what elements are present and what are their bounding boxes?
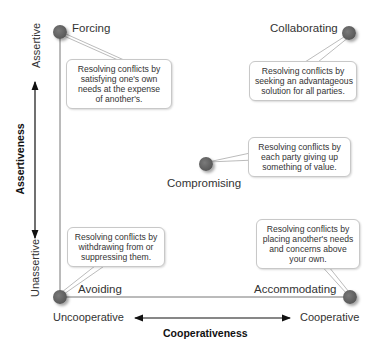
avoiding-desc-line: suppressing them. bbox=[73, 252, 159, 262]
avoiding-desc-line: Resolving conflicts by bbox=[73, 232, 159, 242]
accommodating-desc-line: Resolving conflicts by bbox=[262, 224, 354, 234]
collaborating-desc-line: seeking an advantageous bbox=[255, 76, 351, 86]
avoiding-node bbox=[53, 290, 67, 304]
accommodating-desc-line: your own. bbox=[262, 254, 354, 264]
uncooperative-label: Uncooperative bbox=[53, 311, 124, 323]
avoiding-description: Resolving conflicts by withdrawing from … bbox=[67, 227, 165, 267]
accommodating-node bbox=[343, 290, 357, 304]
compromising-label: Compromising bbox=[167, 177, 241, 189]
cooperative-label: Cooperative bbox=[300, 311, 359, 323]
assertiveness-title: Assertiveness bbox=[14, 123, 26, 195]
collaborating-description: Resolving conflicts by seeking an advant… bbox=[249, 61, 357, 101]
accommodating-label: Accommodating bbox=[254, 283, 336, 295]
forcing-node bbox=[53, 25, 67, 39]
compromising-node bbox=[199, 157, 213, 171]
accommodating-description: Resolving conflicts by placing another's… bbox=[256, 219, 360, 269]
forcing-description: Resolving conflicts by satisfying one's … bbox=[66, 59, 172, 109]
assertive-label: Assertive bbox=[30, 24, 42, 68]
collaborating-desc-line: Resolving conflicts by bbox=[255, 66, 351, 76]
compromising-description: Resolving conflicts by each party giving… bbox=[248, 137, 351, 177]
forcing-desc-line: Resolving conflicts by bbox=[72, 64, 166, 74]
compromising-desc-line: Resolving conflicts by bbox=[254, 142, 345, 152]
collaborating-node bbox=[342, 26, 356, 40]
accommodating-desc-line: and concerns above bbox=[262, 244, 354, 254]
compromising-desc-line: something of value. bbox=[254, 162, 345, 172]
avoiding-label: Avoiding bbox=[78, 283, 122, 295]
cooperativeness-title: Cooperativeness bbox=[163, 327, 248, 339]
collaborating-desc-line: solution for all parties. bbox=[255, 86, 351, 96]
compromising-desc-line: each party giving up bbox=[254, 152, 345, 162]
collaborating-label: Collaborating bbox=[270, 22, 338, 34]
forcing-desc-line: of another's. bbox=[72, 94, 166, 104]
forcing-desc-line: needs at the expense bbox=[72, 84, 166, 94]
forcing-label: Forcing bbox=[72, 22, 110, 34]
avoiding-desc-line: withdrawing from or bbox=[73, 242, 159, 252]
unassertive-label: Unassertive bbox=[29, 239, 41, 297]
accommodating-desc-line: placing another's needs bbox=[262, 234, 354, 244]
forcing-desc-line: satisfying one's own bbox=[72, 74, 166, 84]
